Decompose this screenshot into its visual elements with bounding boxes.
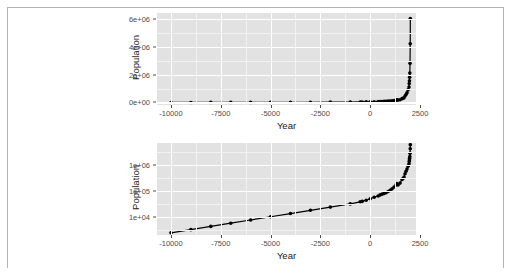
x-axis-ticklabel: -10000 xyxy=(159,109,182,118)
y-axis-tickmark xyxy=(153,74,156,75)
x-axis-ticklabel: -2500 xyxy=(311,109,330,118)
gridline-major-vertical xyxy=(370,13,371,105)
gridline-minor-horizontal xyxy=(157,33,416,34)
y-axis-tickmark xyxy=(153,18,156,19)
gridline-minor-vertical xyxy=(395,13,396,105)
y-axis-ticklabels-linear: 0e+002e+064e+066e+06 xyxy=(120,13,150,105)
data-point xyxy=(249,218,253,222)
gridline-minor-vertical xyxy=(295,13,296,105)
gridline-minor-horizontal xyxy=(157,230,416,231)
x-axis-ticklabel: 2500 xyxy=(412,109,429,118)
gridline-major-horizontal xyxy=(157,75,416,76)
data-point xyxy=(398,181,402,185)
data-point xyxy=(209,225,213,229)
gridline-minor-vertical xyxy=(395,143,396,235)
x-axis-tickmark xyxy=(420,105,421,108)
gridline-minor-vertical xyxy=(246,13,247,105)
y-axis-tickmark xyxy=(153,216,156,217)
data-point xyxy=(289,212,293,216)
gridline-major-horizontal xyxy=(157,102,416,103)
x-axis-tickmark xyxy=(370,105,371,108)
gridline-major-vertical xyxy=(271,143,272,235)
data-point xyxy=(408,79,412,83)
plot-area-linear: Population 0e+002e+064e+066e+06 -10000-7… xyxy=(8,8,503,138)
gridline-minor-vertical xyxy=(196,13,197,105)
y-axis-ticklabel: 1e+05 xyxy=(129,186,150,195)
chart-population-linear: Population 0e+002e+064e+066e+06 -10000-7… xyxy=(8,8,503,138)
y-axis-tickmark xyxy=(153,164,156,165)
x-axis-ticklabel: 0 xyxy=(368,239,372,248)
gridline-major-vertical xyxy=(271,13,272,105)
gridline-major-vertical xyxy=(320,143,321,235)
x-axis-ticklabel: -10000 xyxy=(159,239,182,248)
x-axis-tickmark xyxy=(320,235,321,238)
gridline-minor-horizontal xyxy=(157,152,416,153)
y-axis-tickmark xyxy=(153,46,156,47)
gridline-major-vertical xyxy=(320,13,321,105)
data-point xyxy=(229,221,233,225)
gridline-minor-horizontal xyxy=(157,89,416,90)
page-root: Population 0e+002e+064e+066e+06 -10000-7… xyxy=(0,0,512,276)
x-axis-ticklabel: 0 xyxy=(368,109,372,118)
gridline-minor-horizontal xyxy=(157,61,416,62)
gridline-major-vertical xyxy=(221,13,222,105)
gridline-major-vertical xyxy=(171,13,172,105)
y-axis-ticklabel: 6e+06 xyxy=(129,14,150,23)
x-axis-tickmark xyxy=(221,105,222,108)
x-axis-tickmark xyxy=(221,235,222,238)
data-point xyxy=(364,198,368,202)
x-axis-ticklabel: -5000 xyxy=(261,109,280,118)
data-point xyxy=(408,42,412,46)
x-axis-title-linear: Year xyxy=(157,120,416,131)
gridline-major-horizontal xyxy=(157,165,416,166)
x-axis-tickmark xyxy=(370,235,371,238)
y-axis-ticklabel: 2e+06 xyxy=(129,70,150,79)
y-axis-tickmark xyxy=(153,190,156,191)
gridline-major-horizontal xyxy=(157,19,416,20)
data-point xyxy=(408,76,412,80)
x-axis-title-log: Year xyxy=(157,250,416,261)
x-axis-tickmark xyxy=(271,235,272,238)
y-axis-tickmark xyxy=(153,102,156,103)
gridline-minor-horizontal xyxy=(157,204,416,205)
gridline-minor-vertical xyxy=(196,143,197,235)
gridline-major-vertical xyxy=(171,143,172,235)
gridline-minor-horizontal xyxy=(157,178,416,179)
data-point xyxy=(408,62,412,66)
x-axis-ticklabel: -7500 xyxy=(211,239,230,248)
data-point xyxy=(360,200,364,204)
x-axis-ticklabel: 2500 xyxy=(412,239,429,248)
data-line xyxy=(171,145,410,233)
gridline-major-vertical xyxy=(370,143,371,235)
x-axis-tickmark xyxy=(171,235,172,238)
y-axis-ticklabel: 1e+06 xyxy=(129,160,150,169)
y-axis-ticklabel: 1e+04 xyxy=(129,212,150,221)
x-axis-tickmark xyxy=(271,105,272,108)
gridline-minor-vertical xyxy=(345,143,346,235)
data-point xyxy=(309,209,313,213)
gridline-major-horizontal xyxy=(157,191,416,192)
plot-area-log: Population 1e+041e+051e+06 -10000-7500-5… xyxy=(8,138,503,268)
data-point xyxy=(408,155,412,159)
x-axis-ticklabel: -7500 xyxy=(211,109,230,118)
data-point xyxy=(408,147,412,151)
x-axis-ticklabel: -2500 xyxy=(311,239,330,248)
gridline-major-horizontal xyxy=(157,47,416,48)
x-axis-tickmark xyxy=(320,105,321,108)
gridline-minor-vertical xyxy=(246,143,247,235)
data-point xyxy=(372,195,376,199)
y-axis-ticklabels-log: 1e+041e+051e+06 xyxy=(120,143,150,235)
y-axis-ticklabel: 4e+06 xyxy=(129,42,150,51)
x-axis-tickmark xyxy=(420,235,421,238)
chart-population-log: Population 1e+041e+051e+06 -10000-7500-5… xyxy=(8,138,503,268)
data-point xyxy=(329,205,333,209)
gridline-minor-vertical xyxy=(345,13,346,105)
plot-panel-log xyxy=(157,143,416,235)
gridline-major-horizontal xyxy=(157,217,416,218)
gridline-minor-vertical xyxy=(295,143,296,235)
x-axis-tickmark xyxy=(171,105,172,108)
plot-panel-linear xyxy=(157,13,416,105)
data-point xyxy=(409,143,413,147)
x-axis-ticklabel: -5000 xyxy=(261,239,280,248)
gridline-major-vertical xyxy=(221,143,222,235)
